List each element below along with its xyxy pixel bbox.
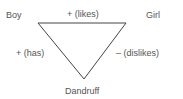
edge-has: + (has) [16, 48, 44, 58]
node-boy: Boy [6, 10, 22, 20]
node-dandruff: Dandruff [65, 86, 99, 96]
node-girl: Girl [146, 10, 160, 20]
edge-dislikes: – (dislikes) [116, 48, 159, 58]
edge-likes: + (likes) [67, 9, 99, 19]
